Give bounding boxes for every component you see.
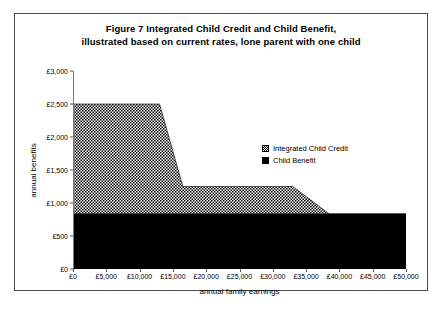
y-tick-label: £0 bbox=[60, 266, 68, 273]
x-tick-mark bbox=[140, 269, 141, 272]
x-tick-mark bbox=[339, 269, 340, 272]
x-tick-label: £35,000 bbox=[293, 273, 318, 280]
y-tick-mark bbox=[70, 104, 73, 105]
x-tick-mark bbox=[240, 269, 241, 272]
x-tick-label: £0 bbox=[69, 273, 77, 280]
series-layer bbox=[73, 104, 406, 269]
legend-swatch-icon bbox=[262, 145, 269, 152]
x-tick-label: £30,000 bbox=[260, 273, 285, 280]
title-line-1: Figure 7 Integrated Child Credit and Chi… bbox=[15, 22, 427, 35]
x-tick-mark bbox=[306, 269, 307, 272]
area-integrated-child-credit bbox=[73, 104, 406, 214]
y-tick-mark bbox=[70, 71, 73, 72]
page-title: Figure 7 Integrated Child Credit and Chi… bbox=[15, 22, 427, 48]
x-tick-mark bbox=[373, 269, 374, 272]
y-axis-label: annual benefits bbox=[27, 71, 39, 269]
x-tick-mark bbox=[206, 269, 207, 272]
x-tick-label: £25,000 bbox=[227, 273, 252, 280]
y-tick-label: £3,000 bbox=[47, 68, 68, 75]
x-tick-label: £15,000 bbox=[160, 273, 185, 280]
x-tick-mark bbox=[406, 269, 407, 272]
x-tick-label: £50,000 bbox=[393, 273, 418, 280]
x-tick-mark bbox=[173, 269, 174, 272]
legend-label: Integrated Child Credit bbox=[273, 144, 348, 153]
legend-item-child-benefit: Child Benefit bbox=[262, 156, 348, 165]
x-tick-label: £40,000 bbox=[327, 273, 352, 280]
stacked-area-svg bbox=[73, 71, 406, 269]
legend-label: Child Benefit bbox=[273, 156, 316, 165]
y-tick-label: £2,000 bbox=[47, 134, 68, 141]
x-tick-label: £10,000 bbox=[127, 273, 152, 280]
chart-legend: Integrated Child Credit Child Benefit bbox=[262, 144, 348, 168]
chart-canvas bbox=[73, 71, 406, 269]
y-tick-label: £1,500 bbox=[47, 167, 68, 174]
x-tick-label: £45,000 bbox=[360, 273, 385, 280]
x-tick-mark bbox=[273, 269, 274, 272]
x-tick-label: £20,000 bbox=[194, 273, 219, 280]
y-tick-label: £500 bbox=[52, 233, 68, 240]
x-axis-label: annual family earnings bbox=[73, 287, 406, 296]
y-tick-mark bbox=[70, 137, 73, 138]
figure-frame: Figure 7 Integrated Child Credit and Chi… bbox=[14, 13, 428, 291]
y-tick-mark bbox=[70, 170, 73, 171]
y-tick-mark bbox=[70, 203, 73, 204]
y-tick-mark bbox=[70, 236, 73, 237]
y-tick-label: £2,500 bbox=[47, 101, 68, 108]
x-tick-label: £5,000 bbox=[96, 273, 117, 280]
legend-swatch-icon bbox=[262, 157, 269, 164]
x-tick-mark bbox=[73, 269, 74, 272]
y-tick-label: £1,000 bbox=[47, 200, 68, 207]
legend-item-integrated-child-credit: Integrated Child Credit bbox=[262, 144, 348, 153]
x-tick-mark bbox=[106, 269, 107, 272]
plot-area: £0£500£1,000£1,500£2,000£2,500£3,000 £0£… bbox=[73, 71, 406, 269]
area-child-benefit bbox=[73, 214, 406, 269]
title-line-2: illustrated based on current rates, lone… bbox=[15, 35, 427, 48]
